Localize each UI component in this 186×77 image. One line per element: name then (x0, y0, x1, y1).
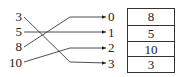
key-label: 3 (0, 10, 22, 23)
arrow-key-10 (24, 48, 106, 62)
index-label: 1 (108, 26, 120, 39)
arrow-key-3 (24, 17, 106, 63)
key-label: 8 (0, 40, 22, 53)
index-label: 3 (108, 57, 120, 70)
table-cell: 3 (128, 56, 174, 72)
key-label: 10 (0, 56, 22, 69)
key-label: 5 (0, 25, 22, 38)
table-cell: 10 (128, 41, 174, 57)
index-label: 0 (108, 10, 120, 23)
table-cell: 8 (128, 9, 174, 25)
hash-table: 8 5 10 3 (127, 8, 175, 73)
index-label: 2 (108, 41, 120, 54)
table-cell: 5 (128, 25, 174, 41)
